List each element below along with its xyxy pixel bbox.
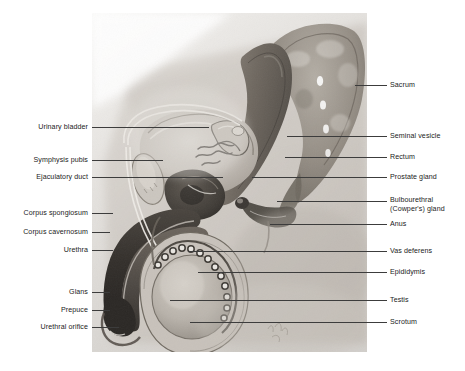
label-testis-leader — [170, 300, 387, 301]
label-ejaculatory-duct: Ejaculatory duct — [36, 173, 88, 182]
label-prostate-gland-leader — [252, 177, 387, 178]
label-vas-deferens-leader — [188, 251, 387, 252]
anatomy-figure: Urinary bladderSymphysis pubisEjaculator… — [0, 0, 465, 371]
label-glans-leader — [92, 292, 110, 293]
label-prepuce: Prepuce — [61, 306, 88, 315]
anatomy-illustration-svg — [92, 13, 367, 352]
sacral-foramen — [323, 125, 329, 134]
label-glans: Glans — [69, 288, 88, 297]
label-ejaculatory-duct-leader — [92, 177, 223, 178]
label-prostate-gland: Prostate gland — [390, 173, 437, 182]
label-epididymis-leader — [198, 272, 387, 273]
label-anus-leader — [270, 224, 387, 225]
bulbourethral-gland-shape — [235, 197, 249, 209]
label-scrotum-leader — [190, 322, 387, 323]
label-urinary-bladder: Urinary bladder — [38, 123, 88, 132]
label-urethral-orifice: Urethral orifice — [41, 323, 88, 332]
label-scrotum: Scrotum — [390, 318, 417, 327]
anatomy-illustration-plate — [92, 13, 367, 352]
label-bulbourethral-gland-line2: (Cowper's) gland — [390, 205, 445, 214]
sacral-foramen — [317, 76, 323, 86]
label-rectum: Rectum — [390, 153, 415, 162]
label-seminal-vesicle: Seminal vesicle — [390, 132, 440, 141]
label-anus: Anus — [390, 220, 407, 229]
label-urinary-bladder-leader — [92, 127, 209, 128]
label-corpus-spongiosum-leader — [92, 213, 113, 214]
label-urethral-orifice-leader — [92, 327, 119, 328]
label-prepuce-leader — [92, 310, 110, 311]
label-testis: Testis — [390, 296, 409, 305]
label-corpus-cavernosum-leader — [92, 232, 110, 233]
sacral-foramen — [325, 149, 330, 157]
label-vas-deferens: Vas deferens — [390, 247, 432, 256]
label-symphysis-pubis: Symphysis pubis — [34, 156, 88, 165]
label-seminal-vesicle-leader — [287, 136, 387, 137]
label-epididymis: Epididymis — [390, 268, 425, 277]
label-urethra: Urethra — [64, 246, 88, 255]
label-urethra-leader — [92, 250, 113, 251]
label-sacrum-leader — [355, 85, 387, 86]
label-corpus-cavernosum: Corpus cavernosum — [23, 228, 88, 237]
label-bulbourethral-gland-leader — [277, 201, 387, 202]
sacral-foramen — [320, 100, 326, 109]
label-corpus-spongiosum: Corpus spongiosum — [24, 209, 88, 218]
label-bulbourethral-gland-line1: Bulbourethral — [390, 196, 445, 205]
label-sacrum: Sacrum — [390, 81, 415, 90]
label-bulbourethral-gland: Bulbourethral(Cowper's) gland — [390, 196, 445, 213]
label-rectum-leader — [285, 157, 387, 158]
label-symphysis-pubis-leader — [92, 160, 163, 161]
